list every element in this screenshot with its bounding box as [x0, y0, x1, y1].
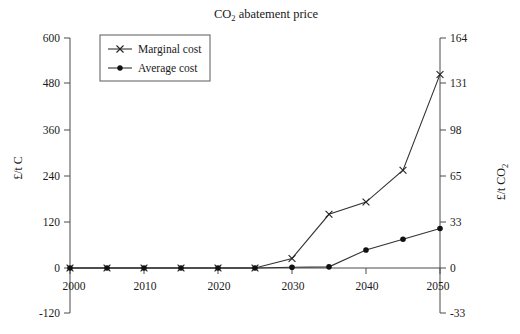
- data-point-marker-dot: [363, 247, 369, 253]
- ytick-right-label-131: 131: [450, 77, 468, 89]
- chart-container: CO2 abatement price 600 480 360 240 120 …: [0, 0, 520, 334]
- chart-title-main: CO: [214, 7, 231, 21]
- legend-box: [100, 35, 210, 81]
- data-point-marker-dot: [437, 226, 443, 232]
- ytick-right-label-65: 65: [450, 170, 462, 182]
- co2-abatement-price-chart: CO2 abatement price 600 480 360 240 120 …: [0, 0, 520, 334]
- data-point-marker-dot: [252, 265, 258, 271]
- xtick-label-2040: 2040: [356, 280, 379, 292]
- ytick-right-label-neg33: -33: [450, 307, 466, 319]
- ytick-right-label-33: 33: [450, 216, 462, 228]
- data-point-marker-x: [289, 255, 296, 262]
- chart-legend: Marginal cost Average cost: [100, 35, 210, 81]
- ytick-label-240: 240: [43, 170, 61, 182]
- data-point-marker-x: [400, 167, 407, 174]
- ytick-label-600: 600: [43, 32, 61, 44]
- ytick-right-label-0: 0: [450, 262, 456, 274]
- legend-label-average-cost: Average cost: [138, 62, 198, 75]
- series-line-marginal-cost: [70, 74, 440, 268]
- xtick-label-2030: 2030: [282, 280, 305, 292]
- data-point-marker-dot: [104, 265, 110, 271]
- series-line-average-cost: [70, 229, 440, 268]
- data-point-marker-dot: [400, 236, 406, 242]
- ytick-label-0: 0: [54, 262, 60, 274]
- xtick-label-2020: 2020: [208, 280, 231, 292]
- ytick-label-480: 480: [43, 77, 61, 89]
- data-point-marker-dot: [215, 265, 221, 271]
- legend-marker-dot-icon: [117, 65, 122, 70]
- data-point-marker-dot: [141, 265, 147, 271]
- ytick-right-label-164: 164: [450, 32, 468, 44]
- data-point-marker-dot: [289, 264, 295, 270]
- ytick-right-label-98: 98: [450, 124, 462, 136]
- chart-title-rest: abatement price: [236, 7, 319, 21]
- data-point-marker-dot: [326, 264, 332, 270]
- xtick-label-2050: 2050: [427, 280, 450, 292]
- ytick-label-120: 120: [43, 216, 61, 228]
- right-axis-title-main: £/t CO: [494, 168, 508, 201]
- right-axis-ticks: [440, 38, 446, 313]
- ytick-label-360: 360: [43, 124, 61, 136]
- legend-label-marginal-cost: Marginal cost: [138, 43, 202, 56]
- xtick-label-2000: 2000: [63, 280, 86, 292]
- data-point-marker-x: [363, 199, 370, 206]
- right-axis-title: £/t CO2: [494, 164, 510, 201]
- left-axis-title: £/t C: [11, 156, 25, 180]
- xtick-label-2010: 2010: [134, 280, 157, 292]
- ytick-label-neg120: -120: [39, 307, 60, 319]
- series-layer: [67, 71, 444, 271]
- data-point-marker-x: [326, 211, 333, 218]
- chart-title: CO2 abatement price: [214, 7, 319, 23]
- right-axis-title-subscript: 2: [500, 164, 510, 168]
- data-point-marker-dot: [178, 265, 184, 271]
- data-point-marker-dot: [67, 265, 73, 271]
